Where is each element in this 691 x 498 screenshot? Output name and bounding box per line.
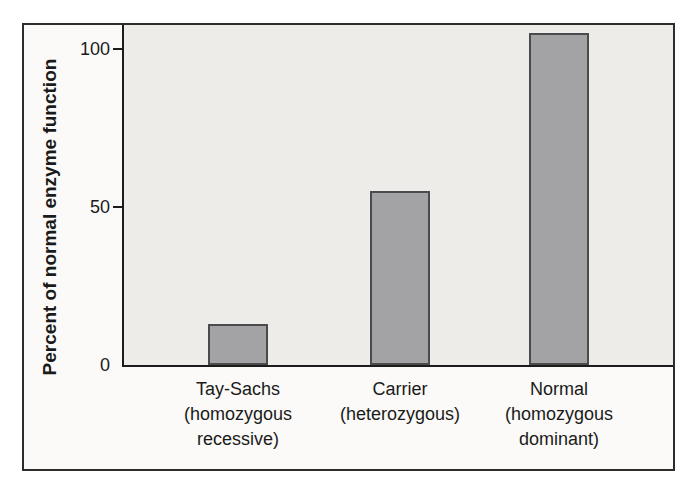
y-tick-label-100: 100	[50, 37, 110, 61]
x-axis-label-line: (heterozygous)	[310, 402, 490, 427]
chart-frame: Percent of normal enzyme function 050100…	[22, 23, 675, 471]
x-axis-label-line: Carrier	[310, 377, 490, 402]
bar-normal	[529, 33, 589, 365]
bar-tay-sachs	[208, 324, 268, 365]
x-axis-label-line: (homozygous	[469, 402, 649, 427]
x-axis-label-line: recessive)	[148, 427, 328, 452]
y-axis: 050100	[24, 25, 122, 367]
x-axis-label-line: (homozygous	[148, 402, 328, 427]
y-tick-mark-50	[113, 206, 122, 208]
x-axis-labels: Tay-Sachs(homozygousrecessive)Carrier(he…	[122, 367, 673, 469]
figure-canvas: Percent of normal enzyme function 050100…	[0, 0, 691, 498]
x-axis-label-tay-sachs: Tay-Sachs(homozygousrecessive)	[148, 377, 328, 452]
x-axis-label-line: Normal	[469, 377, 649, 402]
plot-area	[122, 25, 673, 367]
y-tick-label-50: 50	[50, 195, 110, 219]
x-axis-label-normal: Normal(homozygousdominant)	[469, 377, 649, 452]
y-tick-label-0: 0	[50, 353, 110, 377]
x-axis-label-carrier: Carrier(heterozygous)	[310, 377, 490, 427]
bar-carrier	[370, 191, 430, 365]
y-tick-mark-100	[113, 48, 122, 50]
x-axis-label-line: dominant)	[469, 427, 649, 452]
x-axis-label-line: Tay-Sachs	[148, 377, 328, 402]
